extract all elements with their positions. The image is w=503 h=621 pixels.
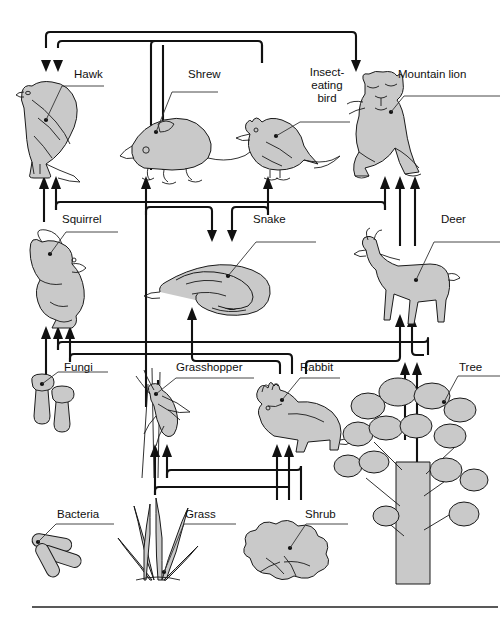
shrew-illustration	[120, 118, 250, 184]
food-web-canvas	[0, 0, 503, 621]
label-tree: Tree	[459, 361, 482, 374]
label-insect-eating-bird-line3: bird	[296, 92, 358, 105]
label-rabbit: Rabbit	[300, 361, 333, 374]
flow-connectors-mid-upper	[56, 202, 385, 242]
bacteria-illustration	[31, 533, 83, 580]
label-shrew: Shrew	[188, 68, 221, 81]
label-shrub: Shrub	[305, 508, 336, 521]
hawk-illustration	[16, 82, 80, 183]
label-insect-eating-bird-line2: eating	[296, 79, 358, 92]
label-insect-eating-bird-line1: Insect-	[296, 66, 358, 79]
fungi-illustration	[32, 374, 74, 432]
shrub-illustration	[244, 520, 329, 579]
label-deer: Deer	[441, 213, 466, 226]
label-mountain-lion: Mountain lion	[398, 68, 466, 81]
label-bacteria: Bacteria	[57, 508, 99, 521]
rabbit-illustration	[257, 382, 352, 452]
grasshopper-illustration	[136, 368, 190, 478]
food-web-diagram: Hawk Shrew Insect- eating bird Mountain …	[0, 0, 503, 621]
flow-arrows-row3	[146, 215, 301, 500]
squirrel-illustration	[30, 230, 86, 328]
flow-connectors-mid-lower	[58, 338, 428, 374]
insect-eating-bird-illustration	[236, 118, 340, 180]
snake-illustration	[144, 265, 270, 316]
label-squirrel: Squirrel	[62, 213, 102, 226]
mountain-lion-illustration	[347, 71, 421, 178]
label-hawk: Hawk	[74, 68, 103, 81]
label-snake: Snake	[253, 213, 286, 226]
tree-illustration	[334, 378, 488, 584]
label-grass: Grass	[185, 508, 216, 521]
label-grasshopper: Grasshopper	[176, 361, 242, 374]
label-fungi: Fungi	[64, 361, 93, 374]
